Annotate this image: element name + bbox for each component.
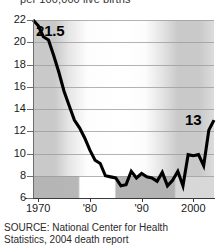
chart-plot-container: 2220181614121086 1970'80'902000 21.5 13 bbox=[0, 12, 218, 208]
y-axis-tick bbox=[27, 109, 33, 110]
start-value-label: 21.5 bbox=[36, 22, 64, 39]
y-axis-tick-label: 16 bbox=[2, 81, 26, 92]
y-axis-tick-label: 6 bbox=[2, 192, 26, 203]
x-axis-tick-label: 2000 bbox=[181, 202, 205, 214]
maternal-mortality-line bbox=[33, 20, 214, 186]
x-axis-tick-label: '90 bbox=[134, 202, 148, 214]
y-axis-tick bbox=[27, 198, 33, 199]
y-axis-tick-label: 22 bbox=[2, 14, 26, 25]
chart-subtitle: per 100,000 live births bbox=[20, 0, 131, 5]
y-axis-tick bbox=[27, 131, 33, 132]
y-axis-tick bbox=[27, 154, 33, 155]
data-series-svg bbox=[33, 20, 214, 198]
end-value-label: 13 bbox=[185, 111, 201, 128]
y-axis-tick bbox=[27, 176, 33, 177]
y-axis-tick-label: 20 bbox=[2, 36, 26, 47]
x-axis-tick-label: 1970 bbox=[26, 202, 50, 214]
source-note: SOURCE: National Center for Health Stati… bbox=[4, 222, 214, 246]
y-axis-tick-label: 18 bbox=[2, 59, 26, 70]
y-axis-tick-label: 10 bbox=[2, 148, 26, 159]
y-axis-tick bbox=[27, 87, 33, 88]
y-axis-line bbox=[33, 20, 34, 199]
y-axis-tick-label: 12 bbox=[2, 125, 26, 136]
y-axis-tick bbox=[27, 20, 33, 21]
y-axis-tick-label: 14 bbox=[2, 103, 26, 114]
plot-area bbox=[33, 20, 214, 198]
y-axis-tick-label: 8 bbox=[2, 170, 26, 181]
source-line-1: SOURCE: National Center for Health bbox=[4, 222, 214, 234]
y-axis-tick bbox=[27, 65, 33, 66]
y-axis-tick bbox=[27, 42, 33, 43]
x-axis-tick-label: '80 bbox=[83, 202, 97, 214]
x-axis-line bbox=[25, 198, 215, 199]
source-line-2: Statistics, 2004 death report bbox=[4, 234, 214, 246]
